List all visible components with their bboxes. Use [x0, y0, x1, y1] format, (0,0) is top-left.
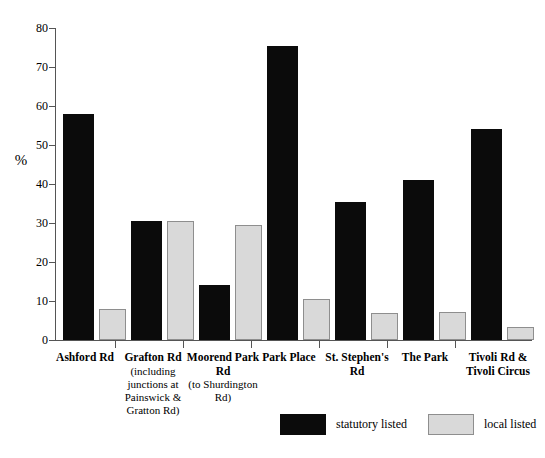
x-axis-line: [55, 340, 532, 341]
legend-item-statutory-listed: statutory listed: [280, 414, 407, 435]
x-tick-mark-1: [115, 341, 116, 348]
bar-statutory-park-place: [267, 46, 298, 340]
bar-statutory-ashford-rd: [63, 114, 94, 340]
bar-local-moorend-park-rd: [235, 225, 262, 340]
x-category-label-ashford-rd: Ashford Rd: [48, 351, 122, 365]
legend-item-local-listed: local listed: [428, 414, 536, 435]
x-category-main-moorend-park-rd: Moorend Park Rd: [186, 351, 260, 378]
bar-local-park-place: [303, 299, 330, 340]
plot-area: [56, 28, 532, 340]
bar-statutory-moorend-park-rd: [199, 285, 230, 340]
y-tick-mark-50: [49, 145, 56, 146]
bar-local-grafton-rd: [167, 221, 194, 340]
y-tick-mark-30: [49, 223, 56, 224]
x-category-label-tivoli-rd-circus: Tivoli Rd & Tivoli Circus: [458, 351, 538, 378]
x-category-label-grafton-rd: Grafton Rd (including junctions at Pains…: [118, 351, 188, 417]
x-category-main-park-place: Park Place: [254, 351, 324, 365]
y-tick-label-80: 80: [22, 22, 48, 34]
y-tick-mark-80: [49, 28, 56, 29]
legend-label-local: local listed: [484, 417, 536, 432]
x-tick-mark-3: [251, 341, 252, 348]
x-category-sub-grafton-rd: (including junctions at Painswick & Grat…: [118, 365, 188, 417]
bar-local-st-stephens-rd: [371, 313, 398, 340]
x-category-label-park-place: Park Place: [254, 351, 324, 365]
x-category-main-grafton-rd: Grafton Rd: [118, 351, 188, 365]
bar-local-tivoli-rd-circus: [507, 327, 534, 340]
x-category-label-st-stephens-rd: St. Stephen's Rd: [320, 351, 394, 378]
bar-chart: % 80 70 60 50 40 30 20 10 0: [0, 0, 545, 458]
bar-statutory-tivoli-rd-circus: [471, 129, 502, 340]
bar-statutory-the-park: [403, 180, 434, 340]
x-tick-mark-5: [387, 341, 388, 348]
x-category-label-moorend-park-rd: Moorend Park Rd (to Shurdington Rd): [186, 351, 260, 404]
x-category-main-ashford-rd: Ashford Rd: [48, 351, 122, 365]
y-tick-mark-20: [49, 262, 56, 263]
y-tick-label-10: 10: [22, 295, 48, 307]
y-tick-label-60: 60: [22, 100, 48, 112]
bar-local-ashford-rd: [99, 309, 126, 340]
x-tick-mark-6: [455, 341, 456, 348]
x-tick-mark-4: [319, 341, 320, 348]
y-tick-mark-70: [49, 67, 56, 68]
y-tick-mark-60: [49, 106, 56, 107]
y-tick-label-30: 30: [22, 217, 48, 229]
x-tick-mark-2: [183, 341, 184, 348]
x-category-sub-moorend-park-rd: (to Shurdington Rd): [186, 378, 260, 404]
y-tick-label-70: 70: [22, 61, 48, 73]
x-category-label-the-park: The Park: [392, 351, 458, 365]
y-tick-mark-40: [49, 184, 56, 185]
bar-statutory-grafton-rd: [131, 221, 162, 340]
bar-statutory-st-stephens-rd: [335, 202, 366, 340]
y-tick-label-50: 50: [22, 139, 48, 151]
bar-local-the-park: [439, 312, 466, 340]
y-tick-mark-10: [49, 301, 56, 302]
chart-legend: statutory listed local listed: [280, 414, 540, 444]
x-category-main-the-park: The Park: [392, 351, 458, 365]
y-axis-title: %: [8, 152, 34, 169]
y-tick-label-0: 0: [22, 334, 48, 346]
y-tick-label-20: 20: [22, 256, 48, 268]
y-tick-mark-0: [49, 340, 56, 341]
y-tick-label-40: 40: [22, 178, 48, 190]
legend-label-statutory: statutory listed: [336, 417, 407, 432]
legend-swatch-statutory-icon: [280, 414, 326, 435]
legend-swatch-local-icon: [428, 414, 474, 435]
x-category-main-st-stephens-rd: St. Stephen's Rd: [320, 351, 394, 378]
x-category-main-tivoli-rd-circus: Tivoli Rd & Tivoli Circus: [458, 351, 538, 378]
